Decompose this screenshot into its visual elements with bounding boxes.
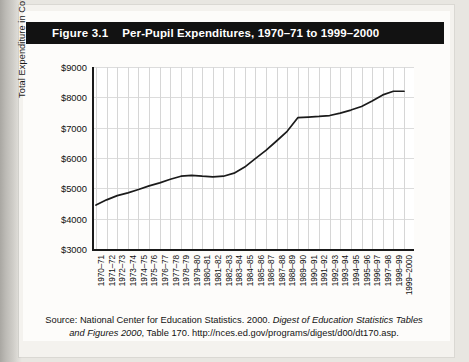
figure-title-bar: Figure 3.1 Per-Pupil Expenditures, 1970–… — [26, 22, 444, 44]
plot-area — [92, 67, 414, 251]
x-tick-label: 1999–2000 — [405, 255, 414, 295]
y-tick-label: $9000 — [61, 62, 87, 73]
x-tick-label: 1985–86 — [257, 255, 266, 286]
x-tick-label: 1994–95 — [352, 255, 361, 286]
x-tick-label: 1978–79 — [182, 255, 191, 286]
y-tick-label: $6000 — [61, 153, 87, 164]
x-tick-label: 1981–82 — [214, 255, 223, 286]
x-tick-label: 1986–87 — [267, 255, 276, 286]
x-tick-label: 1996–97 — [373, 255, 382, 286]
series-line — [94, 67, 414, 249]
x-tick-label: 1998–99 — [395, 255, 404, 286]
source-text-plain-2: , Table 170. http://nces.ed.gov/programs… — [142, 328, 399, 338]
x-tick-label: 1993–94 — [341, 255, 350, 286]
x-tick-label: 1974–75 — [140, 255, 149, 286]
x-tick-label: 1973–74 — [129, 255, 138, 286]
y-tick-label: $4000 — [61, 213, 87, 224]
scanned-page-background: Figure 3.1 Per-Pupil Expenditures, 1970–… — [0, 0, 469, 362]
x-tick-label: 1992–93 — [331, 255, 340, 286]
x-tick-label: 1975–76 — [150, 255, 159, 286]
source-text-italic: Digest of Education Statistics Tables — [273, 315, 423, 325]
y-axis-tick-labels: $9000$8000$7000$6000$5000$4000$3000 — [39, 48, 91, 300]
x-tick-label: 1970–71 — [97, 255, 106, 286]
x-tick-label: 1987–88 — [278, 255, 287, 286]
x-tick-label: 1997–98 — [384, 255, 393, 286]
y-tick-label: $7000 — [61, 122, 87, 133]
x-axis-tick-labels: 1970–711971–721972–731973–741974–751975–… — [92, 254, 414, 300]
y-axis-title: Total Expenditure in Constant 1999–2000 … — [17, 0, 27, 98]
source-line-1: Source: National Center for Education St… — [34, 314, 434, 327]
x-tick-label: 1980–81 — [203, 255, 212, 286]
figure-title: Per-Pupil Expenditures, 1970–71 to 1999–… — [122, 27, 379, 39]
x-tick-label: 1977–78 — [172, 255, 181, 286]
x-tick-label: 1979–80 — [193, 255, 202, 286]
x-tick-label: 1989–90 — [299, 255, 308, 286]
x-tick-label: 1984–85 — [246, 255, 255, 286]
y-tick-label: $8000 — [61, 92, 87, 103]
source-note: Source: National Center for Education St… — [34, 314, 434, 341]
source-text-plain: Source: National Center for Education St… — [45, 315, 272, 325]
x-tick-label: 1976–77 — [161, 255, 170, 286]
y-tick-label: $3000 — [61, 244, 87, 255]
source-text-italic-2: and Figures 2000 — [69, 328, 141, 338]
x-tick-label: 1983–84 — [235, 255, 244, 286]
x-tick-label: 1991–92 — [320, 255, 329, 286]
x-tick-label: 1982–83 — [225, 255, 234, 286]
x-tick-label: 1971–72 — [108, 255, 117, 286]
y-tick-label: $5000 — [61, 183, 87, 194]
x-tick-label: 1995–96 — [363, 255, 372, 286]
x-tick-label: 1990–91 — [310, 255, 319, 286]
x-tick-label: 1972–73 — [118, 255, 127, 286]
chart: Total Expenditure in Constant 1999–2000 … — [19, 48, 455, 300]
figure-number: Figure 3.1 — [52, 27, 108, 39]
x-tick-label: 1988–89 — [288, 255, 297, 286]
source-line-2: and Figures 2000, Table 170. http://nces… — [34, 327, 434, 340]
